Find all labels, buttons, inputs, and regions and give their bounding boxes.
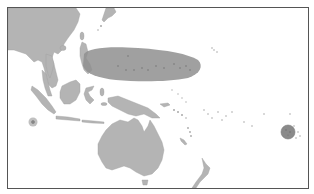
islet [185,117,187,119]
landmass-australia [98,118,164,176]
map-frame: Locator map [7,7,309,189]
marker-west [32,121,35,124]
islet [97,29,99,31]
landmass-java [56,116,80,121]
landmass-new-britain [160,103,170,107]
landmass-borneo [60,80,80,104]
landmass-japan [102,8,116,22]
landmass-new-caledonia [180,138,187,145]
region-label: Highlighted region [8,188,9,189]
islet [189,131,191,133]
landmass-lesser-sunda [82,120,104,124]
landmass-hainan [60,46,66,51]
marker-east [281,125,295,139]
landmass-halmahera [100,88,104,96]
islet [190,135,192,137]
landmass-sumatra [31,86,56,114]
landmass-new-zealand [192,158,210,188]
highlighted-region-main [83,47,201,81]
landmass-seram [101,103,107,106]
landmass-sulawesi [84,86,94,104]
islet [187,127,189,129]
islet [181,114,183,116]
islet [177,111,179,113]
islet [173,109,175,111]
landmass-taiwan [80,32,84,40]
islet [100,25,102,27]
map-canvas [8,8,308,188]
landmass-new-guinea [108,96,160,118]
landmass-tasmania [142,180,148,185]
